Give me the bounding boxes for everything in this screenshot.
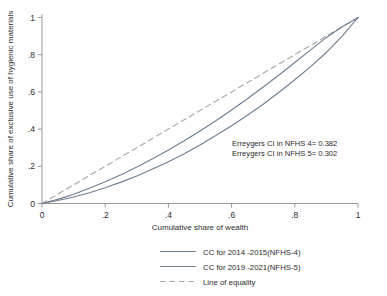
lorenz-concentration-curve-figure: 0 .2 .4 .6 .8 1 0 .2 .4 .6 .8 1 Cumulati… <box>0 0 387 296</box>
y-tick-label-5: 1 <box>30 13 35 23</box>
x-tick-label-3: .6 <box>228 210 235 220</box>
x-axis-title: Cumulative share of wealth <box>152 223 249 232</box>
x-tick-label-5: 1 <box>356 210 361 220</box>
y-tick-label-3: .6 <box>28 87 35 97</box>
annotation-line-1: Erreygers CI in NFHS 4= 0.382 <box>232 139 337 148</box>
legend-label-cc-nfhs-5: CC for 2019 -2021(NFHS-5) <box>203 263 301 272</box>
x-tick-label-2: .4 <box>165 210 172 220</box>
x-tick-label-0: 0 <box>40 210 45 220</box>
y-tick-label-4: .8 <box>28 50 35 60</box>
y-tick-label-2: .4 <box>28 124 35 134</box>
annotation-line-2: Erreygers CI in NFHS 5= 0.302 <box>232 149 337 158</box>
chart-svg: 0 .2 .4 .6 .8 1 0 .2 .4 .6 .8 1 Cumulati… <box>0 0 387 296</box>
x-tick-label-1: .2 <box>102 210 109 220</box>
x-tick-label-4: .8 <box>291 210 298 220</box>
y-tick-label-0: 0 <box>30 199 35 209</box>
legend-label-line-of-equality: Line of equality <box>203 278 256 287</box>
legend-label-cc-nfhs-4: CC for 2014 -2015(NFHS-4) <box>203 248 301 257</box>
y-tick-label-1: .2 <box>28 161 35 171</box>
y-axis-title: Cumulative share of exclusive use of hyg… <box>6 11 15 208</box>
annotation-block: Erreygers CI in NFHS 4= 0.382 Erreygers … <box>232 139 337 158</box>
